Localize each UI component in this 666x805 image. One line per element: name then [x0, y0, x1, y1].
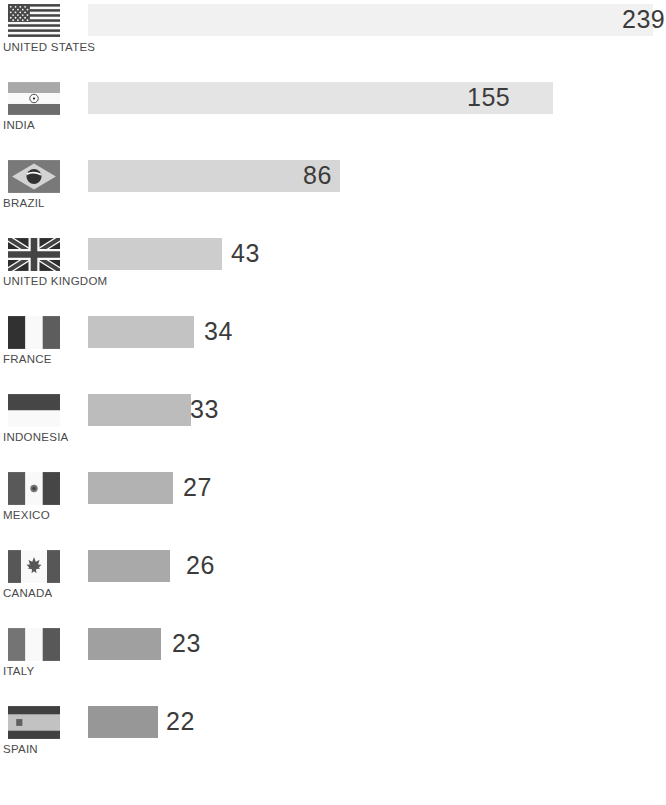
value-label: 43: [231, 236, 260, 270]
value-label: 27: [183, 470, 212, 504]
value-bar: [88, 4, 653, 36]
chart-row: CANADA26: [0, 548, 666, 626]
value-bar: [88, 550, 170, 582]
value-bar: [88, 238, 222, 270]
flag-spain-icon: [8, 706, 60, 739]
country-label: FRANCE: [3, 352, 52, 366]
country-label: UNITED STATES: [3, 40, 95, 54]
flag-united-states-icon: [8, 4, 60, 37]
flag-france-icon: [8, 316, 60, 349]
flag-canada-icon: [8, 550, 60, 583]
flag-indonesia-icon: [8, 394, 60, 427]
flag-mexico-icon: [8, 472, 60, 505]
chart-row: INDIA155: [0, 80, 666, 158]
country-label: UNITED KINGDOM: [3, 274, 107, 288]
country-bar-chart: UNITED STATES239 INDIA155 BRAZIL86 UNITE…: [0, 0, 666, 805]
value-bar: [88, 316, 194, 348]
flag-italy-icon: [8, 628, 60, 661]
chart-row: FRANCE34: [0, 314, 666, 392]
chart-row: INDONESIA33: [0, 392, 666, 470]
value-label: 33: [190, 392, 219, 426]
chart-row: UNITED STATES239: [0, 2, 666, 80]
value-bar: [88, 706, 158, 738]
value-bar: [88, 394, 191, 426]
chart-row: BRAZIL86: [0, 158, 666, 236]
chart-row: MEXICO27: [0, 470, 666, 548]
value-label: 86: [303, 158, 332, 192]
value-label: 23: [172, 626, 201, 660]
value-label: 34: [204, 314, 233, 348]
chart-row: SPAIN22: [0, 704, 666, 782]
value-label: 155: [467, 80, 510, 114]
flag-united-kingdom-icon: [8, 238, 60, 271]
country-label: INDONESIA: [3, 430, 69, 444]
country-label: INDIA: [3, 118, 35, 132]
country-label: ITALY: [3, 664, 35, 678]
flag-brazil-icon: [8, 160, 60, 193]
country-label: MEXICO: [3, 508, 50, 522]
country-label: SPAIN: [3, 742, 38, 756]
value-bar: [88, 628, 161, 660]
country-label: CANADA: [3, 586, 52, 600]
chart-row: UNITED KINGDOM43: [0, 236, 666, 314]
value-label: 22: [166, 704, 195, 738]
flag-india-icon: [8, 82, 60, 115]
value-label: 239: [622, 2, 665, 36]
chart-row: ITALY23: [0, 626, 666, 704]
value-bar: [88, 472, 173, 504]
value-label: 26: [186, 548, 215, 582]
country-label: BRAZIL: [3, 196, 45, 210]
